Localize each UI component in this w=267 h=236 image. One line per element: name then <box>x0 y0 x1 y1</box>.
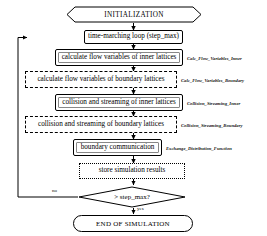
boundary-communication-node: boundary communication <box>73 139 162 156</box>
flowchart-canvas: INITIALIZATION time-marching loop (step_… <box>0 0 267 236</box>
collide-boundary-label: collision and streaming of boundary latt… <box>38 121 164 129</box>
boundary-communication-function-label: Exchange_Distribution_Function <box>166 146 232 151</box>
end-of-simulation-node: END OF SIMULATION <box>73 215 193 232</box>
collide-inner-node: collision and streaming of inner lattice… <box>55 94 183 111</box>
collide-boundary-node: collision and streaming of boundary latt… <box>25 116 177 133</box>
time-marching-loop-label: time-marching loop (step_max) <box>88 33 179 41</box>
initialization-label: INITIALIZATION <box>66 6 202 23</box>
time-marching-loop-node: time-marching loop (step_max) <box>84 30 183 44</box>
edge-label-no: no <box>52 188 57 193</box>
calc-inner-label: calculate flow variables of inner lattic… <box>62 54 177 62</box>
store-results-node: store simulation results <box>79 163 185 179</box>
calc-inner-function-label: Calc_Flow_Variables_Inner <box>187 56 242 61</box>
collide-boundary-function-label: Collision_Streaming_Boundary <box>181 123 243 128</box>
edge-label-yes: yes <box>137 206 144 211</box>
collide-inner-function-label: Collision_Streaming_Inner <box>187 101 240 106</box>
boundary-communication-label: boundary communication <box>81 144 155 152</box>
calc-boundary-node: calculate flow variables of boundary lat… <box>25 71 177 88</box>
calc-inner-node: calculate flow variables of inner lattic… <box>55 49 183 66</box>
initialization-node: INITIALIZATION <box>66 6 202 23</box>
calc-boundary-label: calculate flow variables of boundary lat… <box>37 76 164 84</box>
calc-boundary-function-label: Calc_Flow_Variables_Boundary <box>181 78 244 83</box>
store-results-label: store simulation results <box>99 167 166 175</box>
collide-inner-label: collision and streaming of inner lattice… <box>62 99 176 107</box>
end-of-simulation-label: END OF SIMULATION <box>96 220 170 228</box>
decision-label: > step_max? <box>78 186 186 208</box>
decision-node: > step_max? <box>78 186 186 208</box>
